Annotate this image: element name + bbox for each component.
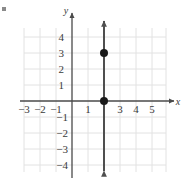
data-point (100, 97, 108, 105)
coordinate-plane-figure: −3 −2 −1 1 3 4 5 4 3 2 1 −1 −2 −3 −4 x y (0, 0, 187, 184)
y-tick-label: −2 (56, 127, 68, 139)
y-tick-label: 3 (59, 47, 65, 59)
graph-canvas: −3 −2 −1 1 3 4 5 4 3 2 1 −1 −2 −3 −4 x y (0, 0, 187, 184)
y-tick-label: 4 (59, 31, 65, 43)
y-tick-label: 1 (59, 79, 65, 91)
x-tick-label: −2 (34, 103, 46, 115)
x-axis-label: x (175, 96, 181, 107)
y-tick-label: 2 (59, 63, 65, 75)
x-tick-label: 1 (85, 103, 91, 115)
y-tick-label: −4 (56, 159, 68, 171)
y-axis-label: y (63, 5, 69, 16)
x-tick-label: 4 (133, 103, 139, 115)
x-tick-label: −3 (18, 103, 30, 115)
x-tick-labels: −3 −2 −1 1 3 4 5 (18, 103, 155, 115)
x-tick-label: 5 (149, 103, 155, 115)
x-tick-label: 3 (117, 103, 123, 115)
data-point (100, 49, 108, 57)
grid-lines (24, 28, 166, 172)
y-tick-label: −3 (56, 143, 68, 155)
axes (20, 13, 174, 178)
y-tick-label: −1 (56, 111, 68, 123)
